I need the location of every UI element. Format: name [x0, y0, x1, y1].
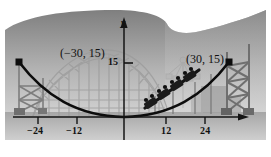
- figure-stage: (−30, 15) (30, 15) y 15 −24 −12 12 24: [5, 4, 266, 140]
- right-tower-base: [221, 108, 232, 115]
- left-tower-base: [14, 108, 25, 115]
- left-point-label: (−30, 15): [60, 46, 105, 61]
- left-tower-base-2: [38, 108, 47, 114]
- x-tick-label-24: 24: [200, 125, 210, 136]
- figure-svg: [5, 4, 266, 140]
- y-tick-label-15: 15: [108, 56, 118, 67]
- left-endpoint-marker: [16, 59, 23, 66]
- x-tick-label-minus24: −24: [27, 125, 43, 136]
- x-tick-label-12: 12: [161, 125, 171, 136]
- y-axis-label: y: [121, 17, 125, 28]
- right-tower-base-2: [243, 108, 254, 115]
- x-tick-label-minus12: −12: [66, 125, 82, 136]
- right-endpoint-marker: [226, 59, 233, 66]
- scene: [5, 4, 266, 140]
- right-point-label: (30, 15): [186, 52, 224, 67]
- roller-coaster-parabola-figure: (−30, 15) (30, 15) y 15 −24 −12 12 24: [0, 0, 271, 157]
